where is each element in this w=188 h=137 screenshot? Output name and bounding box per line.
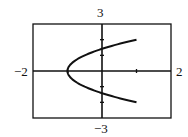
axes [33,24,171,118]
graph-window [0,0,188,137]
